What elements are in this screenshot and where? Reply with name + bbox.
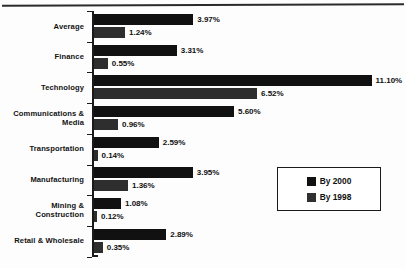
bar-rows: Average3.97%1.24%Finance3.31%0.55%Techno… <box>0 11 406 257</box>
bar-row: Communications &Media5.60%0.96% <box>0 103 406 134</box>
bar-by-2000-wrapper: 3.31% <box>94 45 203 56</box>
bar-row: Technology11.10%6.52% <box>0 72 406 103</box>
bar-by-2000-value-label: 5.60% <box>238 107 261 116</box>
legend-item-by-1998: By 1998 <box>307 192 352 202</box>
bar-by-1998 <box>94 58 108 69</box>
bar-row: Retail & Wholesale2.89%0.35% <box>0 226 406 257</box>
bar-by-2000 <box>94 137 159 148</box>
bar-by-1998-value-label: 0.35% <box>107 243 130 252</box>
bar-by-2000 <box>94 14 193 25</box>
bar-by-1998-wrapper: 0.96% <box>94 119 145 130</box>
category-label-line: Mining & <box>36 201 84 210</box>
bar-by-2000-wrapper: 3.97% <box>94 14 220 25</box>
chart-container: Average3.97%1.24%Finance3.31%0.55%Techno… <box>0 0 406 268</box>
category-label-line: Manufacturing <box>30 175 84 184</box>
bar-by-1998-value-label: 0.96% <box>122 120 145 129</box>
category-label-line: Retail & Wholesale <box>14 236 84 245</box>
bar-by-2000 <box>94 229 166 240</box>
bar-by-1998-wrapper: 1.24% <box>94 27 152 38</box>
bar-by-2000-value-label: 3.31% <box>181 46 204 55</box>
category-label: Retail & Wholesale <box>0 226 84 257</box>
bar-by-1998-wrapper: 0.35% <box>94 242 129 253</box>
legend-item-by-2000: By 2000 <box>307 176 352 186</box>
bar-row: Transportation2.59%0.14% <box>0 134 406 165</box>
bar-by-2000 <box>94 167 193 178</box>
category-label-line: Finance <box>55 52 84 61</box>
bar-by-1998 <box>94 180 128 191</box>
bar-by-2000-value-label: 11.10% <box>376 76 403 85</box>
axis-tick <box>87 257 92 258</box>
bar-by-2000-wrapper: 11.10% <box>94 75 402 86</box>
bar-by-1998 <box>94 88 257 99</box>
bar-by-1998 <box>94 242 103 253</box>
bar-row: Average3.97%1.24% <box>0 11 406 42</box>
legend-swatch-by-1998 <box>307 193 316 202</box>
bar-by-2000-value-label: 3.97% <box>197 15 220 24</box>
category-label-line: Construction <box>36 210 84 219</box>
category-label-line: Media <box>13 118 84 127</box>
bar-by-1998-value-label: 0.14% <box>102 151 125 160</box>
bar-by-2000-wrapper: 2.59% <box>94 137 185 148</box>
category-label: Average <box>0 11 84 42</box>
bar-by-1998 <box>94 150 98 161</box>
bar-by-2000-wrapper: 1.08% <box>94 198 148 209</box>
bar-by-2000-value-label: 1.08% <box>125 199 148 208</box>
row-bars: 2.59%0.14% <box>94 134 406 165</box>
bar-by-1998 <box>94 211 97 222</box>
bar-by-2000-wrapper: 5.60% <box>94 106 261 117</box>
category-label-line: Average <box>54 22 84 31</box>
bar-by-1998-wrapper: 0.14% <box>94 150 124 161</box>
bar-by-1998-wrapper: 6.52% <box>94 88 284 99</box>
bar-by-1998-wrapper: 0.55% <box>94 58 134 69</box>
bar-by-1998-wrapper: 0.12% <box>94 211 124 222</box>
row-bars: 2.89%0.35% <box>94 226 406 257</box>
legend-swatch-by-2000 <box>307 177 316 186</box>
bar-by-1998-value-label: 0.55% <box>112 59 135 68</box>
bar-by-2000-wrapper: 2.89% <box>94 229 193 240</box>
row-bars: 5.60%0.96% <box>94 103 406 134</box>
bar-by-1998-value-label: 1.24% <box>129 28 152 37</box>
legend-label-by-2000: By 2000 <box>320 176 352 186</box>
bar-by-2000 <box>94 106 234 117</box>
bar-by-2000-value-label: 2.89% <box>170 230 193 239</box>
bar-by-2000-value-label: 2.59% <box>163 138 186 147</box>
bar-by-2000 <box>94 198 121 209</box>
category-label: Communications &Media <box>0 103 84 134</box>
plot-area: Average3.97%1.24%Finance3.31%0.55%Techno… <box>0 9 406 263</box>
category-label: Transportation <box>0 134 84 165</box>
bar-by-2000-value-label: 3.95% <box>197 168 220 177</box>
page-divider-rule <box>2 3 404 6</box>
row-bars: 3.31%0.55% <box>94 42 406 73</box>
legend-label-by-1998: By 1998 <box>320 192 352 202</box>
bar-by-1998-wrapper: 1.36% <box>94 180 155 191</box>
bar-by-2000-wrapper: 3.95% <box>94 167 219 178</box>
bar-by-1998-value-label: 1.36% <box>132 181 155 190</box>
category-label-line: Transportation <box>29 144 84 153</box>
bar-row: Finance3.31%0.55% <box>0 42 406 73</box>
category-label: Finance <box>0 42 84 73</box>
category-label-line: Communications & <box>13 109 84 118</box>
row-bars: 11.10%6.52% <box>94 72 406 103</box>
category-label-line: Technology <box>41 83 84 92</box>
bar-by-2000 <box>94 75 372 86</box>
bar-by-1998 <box>94 27 125 38</box>
bar-by-1998-value-label: 0.12% <box>101 212 124 221</box>
bar-by-2000 <box>94 45 177 56</box>
bar-by-1998 <box>94 119 118 130</box>
category-label: Mining &Construction <box>0 195 84 226</box>
row-bars: 3.97%1.24% <box>94 11 406 42</box>
chart-legend: By 2000 By 1998 <box>277 167 381 211</box>
category-label: Manufacturing <box>0 164 84 195</box>
category-label: Technology <box>0 72 84 103</box>
bar-by-1998-value-label: 6.52% <box>261 89 284 98</box>
